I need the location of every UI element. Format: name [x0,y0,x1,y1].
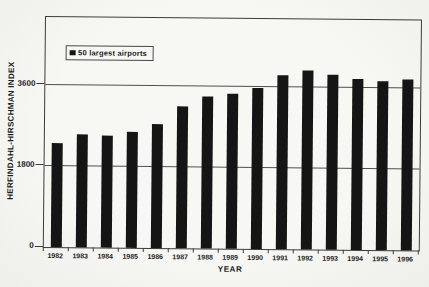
x-tick-label-1985: 1985 [118,253,143,260]
x-tick-label-1988: 1988 [193,253,218,260]
plot-area: 50 largest airports [43,16,422,252]
y-tick-mark-0 [35,245,43,246]
x-tick-mark [93,247,94,251]
x-tick-label-1995: 1995 [368,255,393,262]
x-axis-title: YEAR [43,263,418,276]
bar-1992 [301,71,314,250]
y-tick-mark-1800 [36,164,44,165]
bar-1988 [201,97,213,249]
x-tick-label-1984: 1984 [93,252,118,259]
x-tick-mark [243,249,244,253]
bar-1985 [126,132,138,248]
bar-1993 [326,75,339,250]
x-tick-label-1993: 1993 [318,255,343,262]
bar-1996 [401,80,414,251]
x-tick-label-1990: 1990 [243,254,268,261]
x-tick-mark [143,248,144,252]
x-tick-label-1982: 1982 [43,252,68,259]
x-tick-mark [343,250,344,254]
x-tick-mark [318,250,319,254]
x-tick-label-1986: 1986 [143,253,168,260]
x-tick-mark [293,249,294,253]
gridline-3600 [45,84,420,89]
bar-1994 [351,79,364,250]
x-tick-mark [418,251,419,255]
x-tick-label-1992: 1992 [293,254,318,261]
x-tick-mark [218,249,219,253]
scanned-chart-page: 50 largest airports HERFINDAHL-HIRSCHMAN… [0,0,429,287]
bar-1982 [51,143,63,247]
x-tick-label-1996: 1996 [393,255,418,262]
x-tick-label-1987: 1987 [168,253,193,260]
bar-1990 [251,88,264,249]
x-tick-label-1991: 1991 [268,254,293,261]
x-tick-mark [268,249,269,253]
x-tick-mark [393,250,394,254]
bar-chart-figure: 50 largest airports HERFINDAHL-HIRSCHMAN… [0,0,429,287]
bar-1986 [151,124,163,249]
bar-1991 [276,75,289,249]
x-tick-mark [168,248,169,252]
bar-1983 [76,135,88,248]
legend-series-swatch-icon [70,50,76,56]
legend-box: 50 largest airports [66,45,154,61]
y-tick-label-3600: 3600 [0,78,35,87]
bar-1989 [226,94,238,249]
x-tick-mark [368,250,369,254]
x-tick-mark [193,248,194,252]
legend-series-label: 50 largest airports [78,48,147,58]
bar-1987 [176,106,188,249]
x-tick-label-1983: 1983 [68,252,93,259]
x-tick-mark [118,248,119,252]
y-tick-label-0: 0 [0,241,34,250]
y-tick-mark-3600 [36,83,44,84]
x-tick-label-1989: 1989 [218,254,243,261]
x-tick-mark [68,247,69,251]
x-tick-label-1994: 1994 [343,255,368,262]
bar-1995 [376,81,389,250]
x-tick-mark [43,247,44,251]
bar-1984 [101,136,113,248]
y-tick-label-1800: 1800 [0,159,35,168]
